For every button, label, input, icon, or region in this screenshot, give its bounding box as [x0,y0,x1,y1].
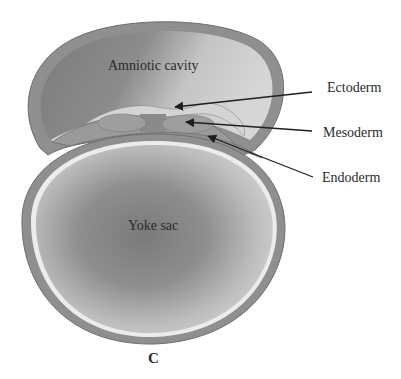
embryo-diagram: Amniotic cavity Yoke sac Ectoderm Mesode… [0,0,401,379]
yolk-sac [22,134,285,344]
mesoderm-label: Mesoderm [323,125,383,140]
yolk-sac-label: Yoke sac [128,218,178,233]
endoderm-label: Endoderm [322,170,380,185]
ectoderm-label: Ectoderm [327,80,382,95]
mesoderm-lobe-left [98,114,146,132]
panel-label: C [148,350,159,366]
amniotic-cavity-label: Amniotic cavity [108,58,199,73]
